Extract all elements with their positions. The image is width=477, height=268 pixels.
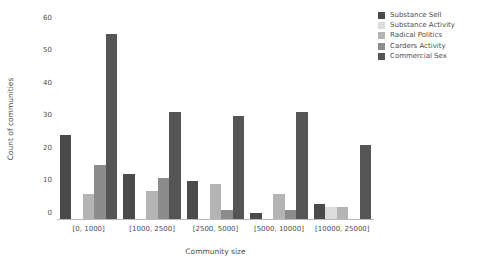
legend-item[interactable]: Substance Sell: [378, 12, 455, 19]
bar-group-bars: [120, 18, 183, 220]
bar[interactable]: [83, 194, 94, 220]
legend-item-label: Substance Sell: [390, 12, 441, 19]
y-axis-title: Count of communities: [6, 78, 15, 161]
bar[interactable]: [146, 191, 157, 220]
legend-swatch-icon: [378, 32, 385, 39]
legend-item-label: Radical Politics: [390, 32, 442, 39]
legend-swatch-icon: [378, 53, 385, 60]
bar[interactable]: [158, 178, 169, 220]
bar-chart-figure: Count of communities 0102030405060 [0, 1…: [0, 0, 477, 268]
x-axis-tick-label: [10000, 25000]: [315, 225, 369, 233]
bar[interactable]: [233, 116, 244, 220]
bar-group-bars: [247, 18, 310, 220]
legend-swatch-icon: [378, 22, 385, 29]
legend-item-label: Substance Activity: [390, 22, 455, 29]
x-axis-tick-label: [2500, 5000]: [193, 225, 239, 233]
bar-group: [0, 1000]: [57, 18, 120, 220]
legend-item[interactable]: Radical Politics: [378, 32, 455, 39]
bar[interactable]: [94, 165, 105, 220]
y-axis-tick-label: 10: [43, 177, 52, 184]
bar-group: [5000, 10000]: [247, 18, 310, 220]
bar-group: [1000, 2500]: [120, 18, 183, 220]
bar[interactable]: [314, 204, 325, 220]
bar[interactable]: [210, 184, 221, 220]
legend-item[interactable]: Substance Activity: [378, 22, 455, 29]
bar-group-bars: [184, 18, 247, 220]
bar[interactable]: [123, 174, 134, 220]
bar[interactable]: [187, 181, 198, 220]
bar[interactable]: [273, 194, 284, 220]
x-axis-tick-label: [0, 1000]: [73, 225, 105, 233]
y-axis-tick-label: 0: [48, 210, 52, 217]
bar-group: [2500, 5000]: [184, 18, 247, 220]
y-axis-tick-label: 60: [43, 14, 52, 21]
y-axis-tick-label: 40: [43, 79, 52, 86]
y-axis-tick-label: 50: [43, 47, 52, 54]
legend-item[interactable]: Commercial Sex: [378, 53, 455, 60]
bar[interactable]: [296, 112, 307, 220]
chart-legend: Substance SellSubstance ActivityRadical …: [378, 12, 455, 60]
y-axis-tick-label: 30: [43, 112, 52, 119]
bar-group: [10000, 25000]: [311, 18, 374, 220]
plot-area: 0102030405060 [0, 1000][1000, 2500][2500…: [57, 18, 374, 220]
bar[interactable]: [360, 145, 371, 220]
legend-item-label: Commercial Sex: [390, 53, 447, 60]
bar[interactable]: [106, 34, 117, 220]
legend-item[interactable]: Carders Activity: [378, 43, 455, 50]
x-axis-tick-label: [1000, 2500]: [129, 225, 175, 233]
bar[interactable]: [60, 135, 71, 220]
bar-group-bars: [311, 18, 374, 220]
y-axis-tick-label: 20: [43, 144, 52, 151]
x-axis-tick-label: [5000, 10000]: [254, 225, 304, 233]
x-axis-baseline: [57, 219, 374, 220]
legend-item-label: Carders Activity: [390, 43, 446, 50]
bar-groups: [0, 1000][1000, 2500][2500, 5000][5000, …: [57, 18, 374, 220]
bar[interactable]: [169, 112, 180, 220]
bar-group-bars: [57, 18, 120, 220]
legend-swatch-icon: [378, 12, 385, 19]
legend-swatch-icon: [378, 43, 385, 50]
x-axis-title: Community size: [57, 247, 374, 256]
